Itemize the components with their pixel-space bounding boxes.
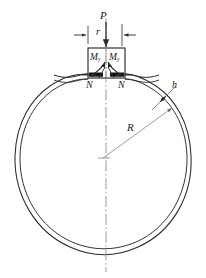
label-normal-force-n-left: N [86,80,93,90]
label-wall-thickness-h: h [172,80,177,90]
label-load-P: P [100,10,107,21]
diagram-canvas [0,0,206,278]
label-moment-my-right: My [109,53,120,63]
radius-line-R [98,108,172,158]
label-normal-force-n-right: N [118,80,125,90]
label-radius-r: R [127,122,134,133]
ring-load-diagram: P r My My N N h R [0,0,206,278]
ring-outer-contour [15,74,191,255]
ring-inner-contour [20,79,187,249]
label-moment-my-right-base: M [109,52,117,62]
label-moment-my-right-subscript: y [117,56,120,62]
label-moment-my-left: My [90,53,101,63]
label-load-width-r: r [96,27,100,37]
label-moment-my-left-base: M [90,52,98,62]
dimension-r [74,24,136,46]
label-moment-my-left-subscript: y [98,56,101,62]
